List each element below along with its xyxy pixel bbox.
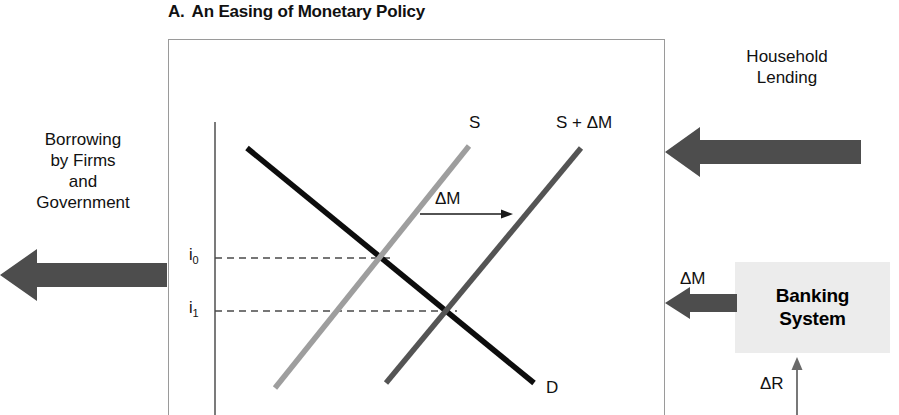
- household-lending-inflow-arrow: [665, 127, 861, 177]
- shift-annotation-delta-m: ΔM: [435, 189, 461, 209]
- banking-system-label: Banking System: [776, 285, 850, 329]
- curve-label-d: D: [546, 378, 558, 398]
- bank-reserves-arrow: [792, 357, 803, 415]
- y-tick-i1: i1: [189, 299, 199, 319]
- bank-money-arrow: [665, 287, 737, 319]
- y-tick-i0-subscript: 0: [193, 254, 199, 266]
- bank-reserves-arrow-label: ΔR: [760, 374, 784, 394]
- y-tick-i1-subscript: 1: [193, 307, 199, 319]
- panel-title: A.An Easing of Monetary Policy: [168, 2, 425, 22]
- y-tick-i0: i0: [189, 246, 199, 266]
- borrowing-outflow-arrow: [0, 249, 167, 301]
- curve-label-s: S: [469, 113, 480, 133]
- panel-letter: A.: [168, 2, 185, 21]
- borrowing-label: Borrowing by Firms and Government: [0, 130, 166, 214]
- chart-frame: [168, 39, 665, 415]
- figure-panel-a: A.An Easing of Monetary Policy Borrowing…: [0, 0, 899, 415]
- curve-label-s-plus-delta-m: S + ΔM: [556, 113, 612, 133]
- panel-title-text: An Easing of Monetary Policy: [192, 2, 425, 21]
- bank-money-arrow-label: ΔM: [680, 269, 706, 289]
- banking-system-box: Banking System: [735, 262, 890, 353]
- household-lending-label: Household Lending: [676, 47, 898, 89]
